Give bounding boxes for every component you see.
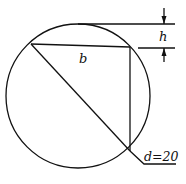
geometry-diagram: b h d=20 <box>0 0 186 184</box>
chord-b <box>31 44 130 47</box>
label-d: d=20 <box>144 149 178 164</box>
down-arrow-icon <box>162 16 167 24</box>
label-h: h <box>159 29 167 44</box>
label-b: b <box>79 51 87 66</box>
up-arrow-icon <box>162 48 167 56</box>
